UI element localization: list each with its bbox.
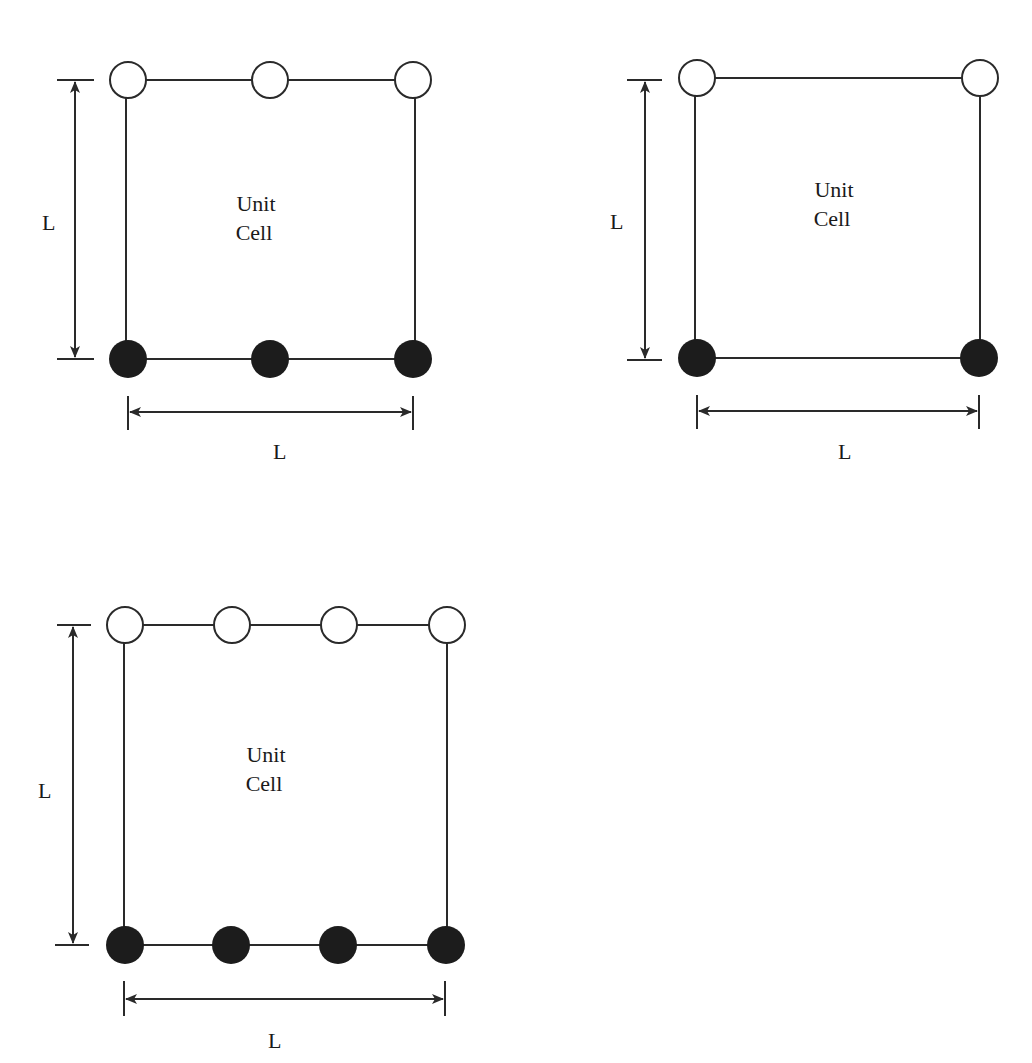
height-label: L bbox=[38, 778, 51, 803]
open-node bbox=[321, 607, 357, 643]
filled-node bbox=[106, 926, 144, 964]
width-label: L bbox=[273, 439, 286, 464]
unit-cell-figure: L L Unit Cell L L bbox=[0, 0, 1032, 1063]
open-node bbox=[429, 607, 465, 643]
cell-label-line2: Cell bbox=[814, 206, 851, 231]
open-node bbox=[395, 62, 431, 98]
width-dimension bbox=[128, 396, 413, 430]
height-dimension bbox=[627, 80, 662, 360]
open-node bbox=[679, 60, 715, 96]
open-node bbox=[214, 607, 250, 643]
filled-node bbox=[394, 340, 432, 378]
width-dimension bbox=[124, 981, 445, 1016]
filled-node bbox=[212, 926, 250, 964]
cell-label-line2: Cell bbox=[246, 771, 283, 796]
width-label: L bbox=[838, 439, 851, 464]
width-dimension bbox=[697, 395, 979, 429]
unit-cell-diagram-4-nodes: L L Unit Cell bbox=[38, 607, 465, 1053]
open-node bbox=[110, 62, 146, 98]
filled-node bbox=[319, 926, 357, 964]
cell-label-line2: Cell bbox=[236, 220, 273, 245]
cell-label-line1: Unit bbox=[236, 191, 275, 216]
unit-cell-diagram-2-nodes: L L Unit Cell bbox=[610, 60, 998, 464]
filled-node bbox=[251, 340, 289, 378]
unit-cell-diagram-3-nodes: L L Unit Cell bbox=[42, 62, 432, 464]
height-dimension bbox=[57, 80, 94, 359]
filled-node bbox=[109, 340, 147, 378]
open-node bbox=[962, 60, 998, 96]
open-node bbox=[252, 62, 288, 98]
cell-label-line1: Unit bbox=[814, 177, 853, 202]
open-node bbox=[107, 607, 143, 643]
filled-node bbox=[678, 339, 716, 377]
height-label: L bbox=[610, 209, 623, 234]
filled-node bbox=[960, 339, 998, 377]
cell-frame bbox=[124, 625, 447, 945]
height-dimension bbox=[55, 625, 91, 945]
filled-node bbox=[427, 926, 465, 964]
width-label: L bbox=[268, 1028, 281, 1053]
height-label: L bbox=[42, 210, 55, 235]
cell-label-line1: Unit bbox=[246, 742, 285, 767]
